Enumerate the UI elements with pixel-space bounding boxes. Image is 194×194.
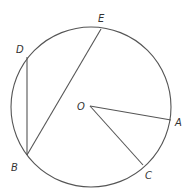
label-c: C [145, 170, 152, 181]
label-b: B [11, 162, 18, 173]
label-o: O [77, 101, 85, 112]
label-a: A [174, 117, 182, 128]
label-d: D [16, 44, 24, 55]
circle-diagram: E D O A B C [0, 0, 194, 194]
chord-be [27, 29, 101, 155]
radius-oc [90, 106, 143, 165]
label-e: E [98, 13, 105, 24]
radius-oa [90, 106, 171, 120]
